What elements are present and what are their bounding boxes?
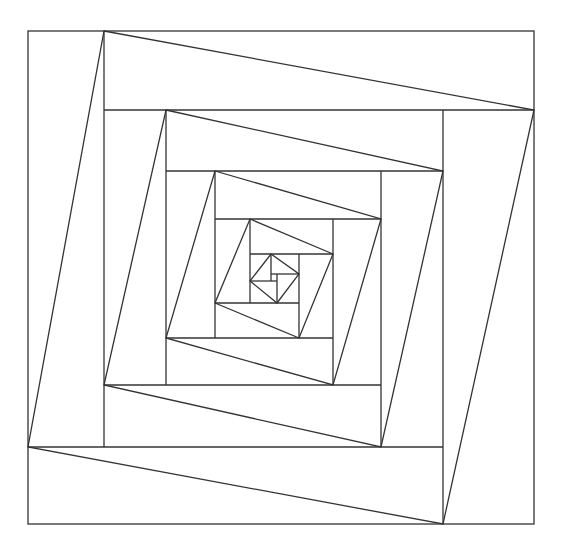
level-4 bbox=[215, 219, 333, 338]
rotated-square bbox=[250, 254, 299, 303]
level-2 bbox=[104, 110, 443, 447]
level-1 bbox=[28, 31, 534, 524]
level-5 bbox=[250, 254, 299, 303]
diagram-svg bbox=[0, 0, 564, 550]
rotated-square bbox=[166, 171, 381, 385]
spiral-squares-diagram bbox=[0, 0, 564, 550]
rotated-square bbox=[104, 110, 443, 447]
rotated-square bbox=[215, 219, 333, 338]
level-3 bbox=[166, 171, 381, 385]
